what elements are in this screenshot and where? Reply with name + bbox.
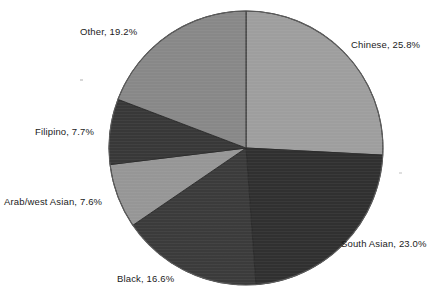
pie-label-filipino: Filipino, 7.7% [35,126,94,138]
pie-label-other: Other, 19.2% [80,26,137,38]
pie-label-chinese: Chinese, 25.8% [351,39,420,51]
pie-label-arab-west-asian: Arab/west Asian, 7.6% [4,196,102,208]
pie-slice-chinese [246,11,383,155]
pie-chart: Chinese, 25.8% South Asian, 23.0% Black,… [0,0,431,297]
pie-slice-south-asian [246,148,383,285]
pie-label-black: Black, 16.6% [117,273,174,285]
pie-label-south-asian: South Asian, 23.0% [341,238,427,250]
